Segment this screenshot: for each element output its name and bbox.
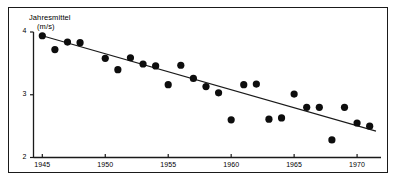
data-point bbox=[353, 119, 360, 126]
data-point bbox=[102, 55, 109, 62]
data-point bbox=[265, 116, 272, 123]
x-tick-label: 1960 bbox=[218, 161, 244, 168]
y-tick-label: 4 bbox=[15, 27, 27, 34]
y-tick-label: 3 bbox=[15, 90, 27, 97]
data-point bbox=[328, 136, 335, 143]
y-tick-label: 2 bbox=[15, 153, 27, 160]
data-point bbox=[51, 46, 58, 53]
data-point bbox=[278, 114, 285, 121]
trend-line bbox=[42, 36, 376, 131]
x-tick-label: 1945 bbox=[29, 161, 55, 168]
data-point bbox=[341, 104, 348, 111]
data-point bbox=[64, 38, 71, 45]
data-point bbox=[114, 66, 121, 73]
data-point bbox=[76, 39, 83, 46]
data-point bbox=[177, 62, 184, 69]
figure-container: Jahresmittel (m/s) 234 19451950195519601… bbox=[0, 0, 397, 181]
data-point bbox=[39, 32, 46, 39]
data-point bbox=[152, 62, 159, 69]
plot-area bbox=[0, 0, 397, 181]
data-point bbox=[190, 75, 197, 82]
data-point bbox=[202, 83, 209, 90]
x-tick-label: 1950 bbox=[92, 161, 118, 168]
x-tick-label: 1955 bbox=[155, 161, 181, 168]
data-point bbox=[291, 91, 298, 98]
data-point bbox=[253, 80, 260, 87]
data-point bbox=[240, 81, 247, 88]
data-point bbox=[316, 104, 323, 111]
data-point bbox=[228, 116, 235, 123]
data-point bbox=[127, 54, 134, 61]
data-point bbox=[215, 89, 222, 96]
trend-line-segment bbox=[42, 36, 376, 131]
x-tick-label: 1970 bbox=[344, 161, 370, 168]
data-point bbox=[139, 60, 146, 67]
x-tick-label: 1965 bbox=[281, 161, 307, 168]
data-point bbox=[165, 81, 172, 88]
data-point bbox=[303, 104, 310, 111]
data-point bbox=[366, 123, 373, 130]
